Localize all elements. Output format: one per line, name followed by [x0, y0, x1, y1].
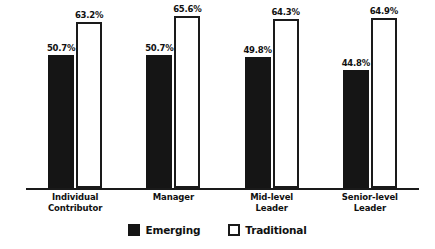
x-tick-label-line1: Mid-level [233, 192, 311, 203]
bar-wrap-traditional-3: 64.3% [273, 0, 299, 188]
bar-wrap-traditional-4: 64.9% [371, 0, 397, 188]
bar-group-mid-level-leader: 49.8% 64.3% [233, 0, 311, 188]
bar-wrap-emerging-3: 49.8% [245, 0, 271, 188]
legend-swatch-emerging-icon [128, 224, 140, 236]
chart-legend: Emerging Traditional [0, 224, 435, 236]
legend-item-emerging[interactable]: Emerging [128, 224, 200, 236]
x-tick-label-line1: Manager [134, 192, 212, 203]
x-axis-tick-labels: Individual Contributor Manager Mid-level… [26, 192, 419, 222]
bar-emerging-3[interactable] [245, 57, 271, 188]
bar-emerging-1[interactable] [48, 55, 74, 188]
grouped-bar-chart: 50.7% 63.2% 50.7% 65.6% [0, 0, 435, 249]
x-tick-label-line2: Leader [331, 203, 409, 214]
bar-traditional-2[interactable] [174, 16, 200, 188]
bar-group-manager: 50.7% 65.6% [134, 0, 212, 188]
bar-emerging-4[interactable] [343, 70, 369, 188]
bar-value-emerging-2: 50.7% [145, 44, 174, 53]
legend-label-emerging: Emerging [145, 224, 200, 236]
bar-traditional-4[interactable] [371, 18, 397, 188]
bar-value-traditional-1: 63.2% [75, 11, 104, 20]
bar-value-emerging-4: 44.8% [342, 59, 371, 68]
bar-group-senior-level-leader: 44.8% 64.9% [331, 0, 409, 188]
bar-wrap-emerging-2: 50.7% [146, 0, 172, 188]
x-tick-label-line2: Leader [233, 203, 311, 214]
bar-wrap-traditional-2: 65.6% [174, 0, 200, 188]
x-tick-label-individual-contributor: Individual Contributor [36, 192, 114, 214]
bar-wrap-emerging-1: 50.7% [48, 0, 74, 188]
bar-traditional-3[interactable] [273, 19, 299, 188]
bar-value-emerging-3: 49.8% [243, 46, 272, 55]
x-tick-label-line1: Individual [36, 192, 114, 203]
bar-groups: 50.7% 63.2% 50.7% 65.6% [26, 0, 419, 188]
legend-label-traditional: Traditional [245, 224, 306, 236]
bar-wrap-emerging-4: 44.8% [343, 0, 369, 188]
x-tick-label-line2: Contributor [36, 203, 114, 214]
bar-value-traditional-3: 64.3% [271, 8, 300, 17]
legend-item-traditional[interactable]: Traditional [228, 224, 306, 236]
x-tick-label-manager: Manager [134, 192, 212, 203]
bar-group-individual-contributor: 50.7% 63.2% [36, 0, 114, 188]
bar-value-emerging-1: 50.7% [47, 44, 76, 53]
x-axis-baseline [26, 188, 419, 190]
bar-wrap-traditional-1: 63.2% [76, 0, 102, 188]
plot-area: 50.7% 63.2% 50.7% 65.6% [0, 0, 435, 190]
bar-value-traditional-2: 65.6% [173, 5, 202, 14]
x-tick-label-line1: Senior-level [331, 192, 409, 203]
x-tick-label-mid-level-leader: Mid-level Leader [233, 192, 311, 214]
bar-traditional-1[interactable] [76, 22, 102, 188]
legend-swatch-traditional-icon [228, 224, 240, 236]
bar-value-traditional-4: 64.9% [370, 7, 399, 16]
bar-emerging-2[interactable] [146, 55, 172, 188]
x-tick-label-senior-level-leader: Senior-level Leader [331, 192, 409, 214]
